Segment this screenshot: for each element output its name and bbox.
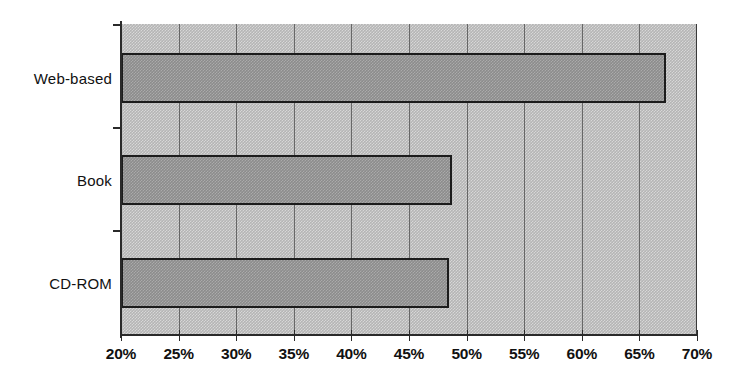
x-tick-label-60: 60% (552, 345, 612, 363)
x-tick-label-50: 50% (437, 345, 497, 363)
x-tick-20 (121, 330, 122, 341)
x-tick-70 (697, 330, 698, 341)
x-tick-30 (236, 330, 237, 341)
category-label-book: Book (77, 172, 112, 189)
x-tick-label-20: 20% (91, 345, 151, 363)
x-tick-65 (639, 330, 640, 341)
x-tick-label-30: 30% (206, 345, 266, 363)
x-tick-40 (351, 330, 352, 341)
x-tick-35 (294, 330, 295, 341)
bar-chart: Web-based Book CD-ROM 20% 25% 30% 35% 40… (0, 0, 746, 388)
bar-book (121, 155, 452, 205)
x-tick-25 (179, 330, 180, 341)
x-tick-label-40: 40% (321, 345, 381, 363)
x-tick-60 (582, 330, 583, 341)
x-tick-label-35: 35% (264, 345, 324, 363)
x-tick-label-65: 65% (609, 345, 669, 363)
bar-cd-rom (121, 258, 449, 308)
gridline-70 (696, 24, 697, 335)
x-tick-label-70: 70% (667, 345, 727, 363)
category-label-web-based: Web-based (34, 70, 112, 87)
x-tick-label-45: 45% (379, 345, 439, 363)
category-label-cd-rom: CD-ROM (49, 275, 112, 292)
y-tick-2 (113, 230, 121, 232)
x-tick-label-55: 55% (494, 345, 554, 363)
y-axis-line (120, 21, 122, 338)
y-tick-1 (113, 127, 121, 129)
x-tick-50 (467, 330, 468, 341)
x-tick-label-25: 25% (149, 345, 209, 363)
y-tick-top (113, 24, 121, 26)
x-tick-45 (409, 330, 410, 341)
bar-web-based (121, 53, 666, 103)
x-tick-55 (524, 330, 525, 341)
